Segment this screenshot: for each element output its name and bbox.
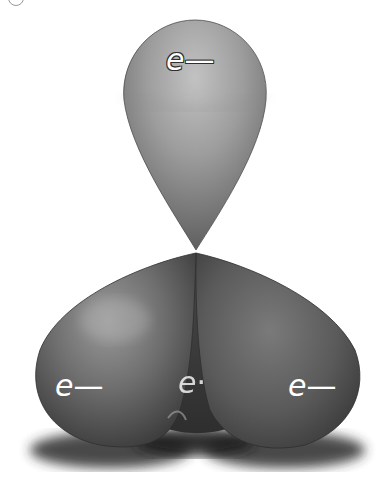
lobe-right <box>196 253 360 448</box>
lobe-left <box>36 253 196 447</box>
electron-label-left: e— <box>55 371 103 401</box>
electron-label-right: e— <box>288 371 336 401</box>
electron-label-center: e· <box>178 368 206 398</box>
electron-label-top: e— <box>166 45 214 75</box>
orbital-diagram: e— e— e· e— <box>0 0 389 495</box>
